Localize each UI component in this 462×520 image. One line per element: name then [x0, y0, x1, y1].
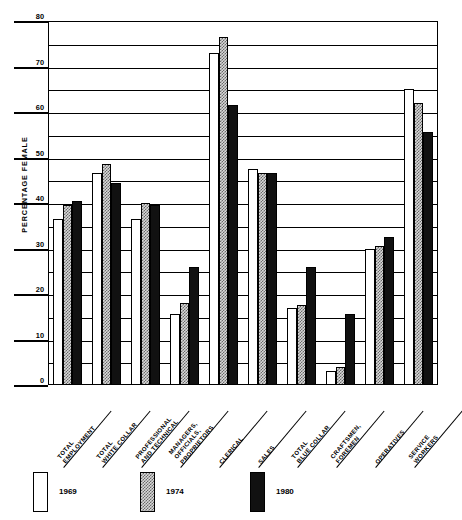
y-axis-tick-label: 10	[14, 331, 44, 340]
category-label-text: SERVICEWORKERS	[406, 429, 439, 465]
y-axis-tick-label: 80	[14, 12, 44, 21]
bar-1974-group-3	[141, 203, 150, 385]
y-axis-tick-label: 30	[14, 240, 44, 249]
category-label-text: SALES	[256, 443, 276, 465]
bar-1969-group-6	[248, 169, 257, 385]
bar-1969-group-9	[365, 249, 374, 386]
bar-1974-group-4	[180, 303, 189, 385]
bar-1969-group-1	[53, 219, 62, 385]
legend-label: 1980	[276, 487, 294, 496]
y-axis-label: PERCENTAGE FEMALE	[20, 115, 29, 255]
y-axis-tick	[14, 203, 48, 205]
chart-legend: 196919741980	[0, 470, 455, 520]
y-axis-tick-label: 60	[14, 103, 44, 112]
y-axis-tick-label: 0	[14, 376, 44, 385]
bar-1980-group-1	[72, 201, 81, 385]
bar-1974-group-8	[336, 367, 345, 385]
y-axis-tick	[14, 294, 48, 296]
bar-1980-group-7	[306, 267, 315, 385]
y-axis-tick	[14, 67, 48, 69]
bar-1974-group-9	[375, 246, 384, 385]
legend-label: 1969	[59, 487, 77, 496]
y-axis-tick-label: 50	[14, 149, 44, 158]
bar-1980-group-6	[267, 173, 276, 385]
bar-1974-group-6	[258, 173, 267, 385]
bar-1969-group-2	[92, 173, 101, 385]
bar-series-container	[48, 21, 438, 385]
black-swatch	[250, 472, 265, 512]
y-axis-tick	[14, 249, 48, 251]
bar-1980-group-9	[384, 237, 393, 385]
category-label-text: CRAFTSMEN,FOREMEN	[328, 422, 367, 465]
bar-1974-group-2	[102, 164, 111, 385]
bar-1974-group-10	[414, 103, 423, 385]
y-axis-tick-label: 70	[14, 58, 44, 67]
y-axis-tick	[14, 112, 48, 114]
y-axis-tick	[14, 158, 48, 160]
category-label-line: OPERATIVES	[373, 428, 406, 465]
category-label-line: CLERICAL	[217, 434, 244, 465]
category-label-text: TOTALEMPLOYMENT	[55, 420, 96, 465]
category-label-text: OPERATIVES	[373, 428, 406, 465]
category-label-text: TOTALBLUE COLLAR	[289, 419, 331, 465]
bar-1980-group-4	[189, 267, 198, 385]
bar-1974-group-1	[63, 205, 72, 385]
y-axis-tick-label: 40	[14, 194, 44, 203]
bar-1969-group-8	[326, 371, 335, 385]
category-label-line: SALES	[256, 443, 276, 465]
bar-1980-group-8	[345, 314, 354, 385]
bar-1980-group-10	[423, 132, 432, 385]
bar-1969-group-4	[170, 314, 179, 385]
bar-1980-group-5	[228, 105, 237, 385]
bar-1969-group-3	[131, 219, 140, 385]
y-axis-tick-label: 20	[14, 285, 44, 294]
white-swatch	[33, 472, 48, 512]
bar-1969-group-10	[404, 89, 413, 385]
bar-1974-group-5	[219, 37, 228, 385]
bar-1969-group-7	[287, 308, 296, 385]
checkered-swatch	[140, 472, 155, 512]
bar-1974-group-7	[297, 305, 306, 385]
y-axis-tick	[14, 21, 48, 23]
legend-label: 1974	[166, 487, 184, 496]
bar-1980-group-2	[111, 183, 120, 385]
bar-1980-group-3	[150, 205, 159, 385]
category-label-text: CLERICAL	[217, 434, 244, 465]
bar-1969-group-5	[209, 53, 218, 385]
category-axis-labels: TOTALEMPLOYMENTTOTALWHITE COLLARPROFESSI…	[0, 385, 455, 470]
y-axis-tick	[14, 340, 48, 342]
